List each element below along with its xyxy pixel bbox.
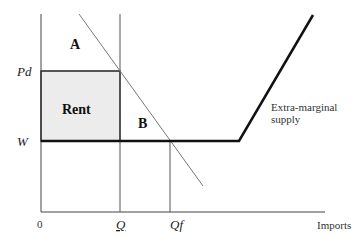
region-b-label: B — [138, 116, 147, 131]
pd-label: Pd — [16, 64, 32, 79]
extra-marginal-label-1: Extra-marginal — [271, 101, 337, 113]
imports-axis-label: Imports — [317, 219, 351, 231]
extra-marginal-label-2: supply — [271, 113, 301, 125]
q-quota-label: Q — [116, 217, 126, 232]
rent-label: Rent — [62, 102, 91, 117]
region-a-label: A — [70, 37, 81, 52]
qf-label: Qf — [170, 217, 185, 232]
origin-label: 0 — [37, 218, 43, 230]
w-label: W — [17, 134, 29, 149]
import-quota-diagram: Pd W A Rent B Extra-marginal supply 0 Q … — [0, 0, 361, 244]
